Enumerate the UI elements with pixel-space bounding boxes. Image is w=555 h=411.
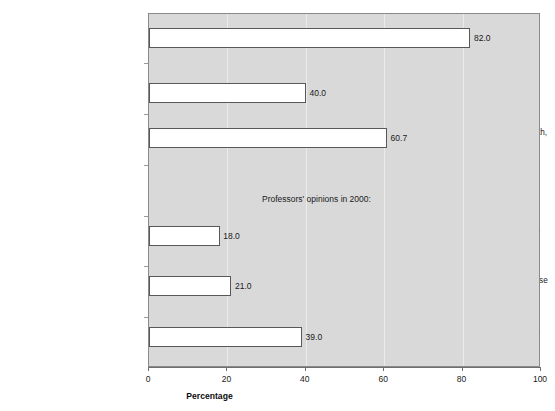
x-axis-title-text: Percentage <box>186 391 232 401</box>
x-axis-tick-80 <box>462 367 463 371</box>
x-axis-tick-40 <box>305 367 306 371</box>
gridline-80 <box>463 14 464 366</box>
gridline-60 <box>384 14 385 366</box>
plot-area: 82.0 40.0 60.7 18.0 21.0 39.0 Professors… <box>148 13 540 367</box>
x-axis-tick-label-0: 0 <box>146 374 151 384</box>
bar-value-reading-proficient: 40.0 <box>310 88 327 98</box>
x-axis-tick-label-40: 40 <box>300 374 309 384</box>
x-axis-tick-100 <box>540 367 541 371</box>
bar-act-ready[interactable] <box>149 28 470 48</box>
bar-chart-figure: % of ACT test takers ready for college l… <box>0 0 555 411</box>
gridline-40 <box>306 14 307 366</box>
x-axis-line <box>148 367 540 368</box>
x-axis-title: Percentage <box>0 391 555 401</box>
x-axis-tick-label-100: 100 <box>533 374 547 384</box>
x-axis-tick-0 <box>148 367 149 371</box>
bar-reading-proficient[interactable] <box>149 83 306 103</box>
bar-basic-math-skills[interactable] <box>149 327 302 347</box>
bar-value-basic-math-skills: 39.0 <box>306 332 323 342</box>
plot-annotation: Professors' opinions in 2000: <box>262 194 371 205</box>
bar-grammar-spelling[interactable] <box>149 276 231 296</box>
x-axis-tick-60 <box>383 367 384 371</box>
bar-value-math-proficient: 60.7 <box>391 133 408 143</box>
bar-write-clearly[interactable] <box>149 226 220 246</box>
bar-value-grammar-spelling: 21.0 <box>235 281 252 291</box>
x-axis-tick-label-80: 80 <box>457 374 466 384</box>
bar-value-write-clearly: 18.0 <box>223 231 240 241</box>
x-axis-tick-label-20: 20 <box>222 374 231 384</box>
bar-math-proficient[interactable] <box>149 128 387 148</box>
bar-value-act-ready: 82.0 <box>474 33 491 43</box>
x-axis-tick-20 <box>226 367 227 371</box>
gridline-20 <box>227 14 228 366</box>
x-axis-tick-label-60: 60 <box>378 374 387 384</box>
